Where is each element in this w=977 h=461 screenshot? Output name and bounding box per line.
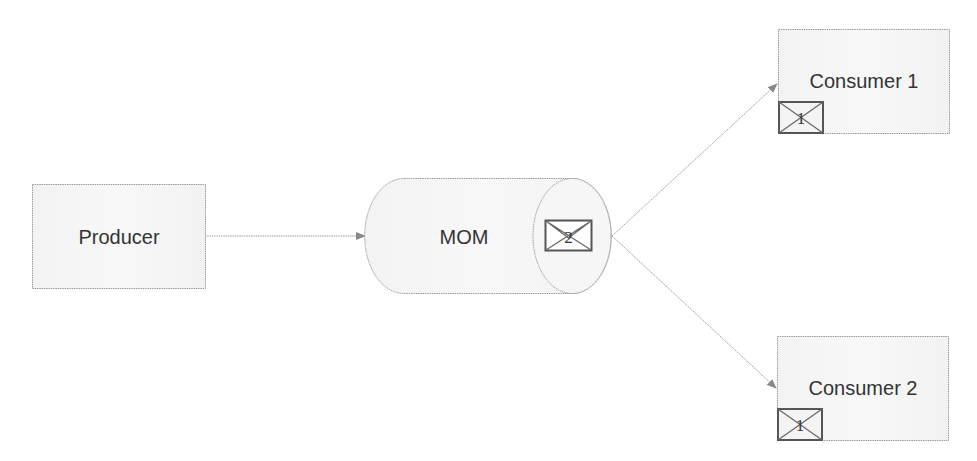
envelope-icon: 1 bbox=[779, 102, 823, 133]
consumer2-label: Consumer 2 bbox=[809, 377, 918, 399]
mom-message-count: 2 bbox=[564, 228, 573, 247]
consumer1-node[interactable]: Consumer 1 1 bbox=[779, 30, 950, 134]
envelope-icon: 1 bbox=[778, 409, 822, 440]
edge-mom-to-consumer2 bbox=[612, 236, 776, 388]
consumer1-message: 1 bbox=[797, 109, 806, 128]
envelope-icon: 2 bbox=[546, 221, 592, 251]
producer-node[interactable]: Producer bbox=[33, 185, 206, 289]
consumer2-message: 1 bbox=[796, 416, 805, 435]
producer-label: Producer bbox=[78, 226, 159, 248]
edge-mom-to-consumer1 bbox=[612, 84, 777, 236]
diagram-canvas: Producer MOM 2 Consumer 1 1 Consumer 2 1 bbox=[0, 0, 977, 461]
consumer1-label: Consumer 1 bbox=[810, 70, 919, 92]
mom-node[interactable]: MOM 2 bbox=[365, 179, 612, 294]
consumer2-node[interactable]: Consumer 2 1 bbox=[778, 337, 949, 441]
mom-label: MOM bbox=[440, 226, 489, 248]
